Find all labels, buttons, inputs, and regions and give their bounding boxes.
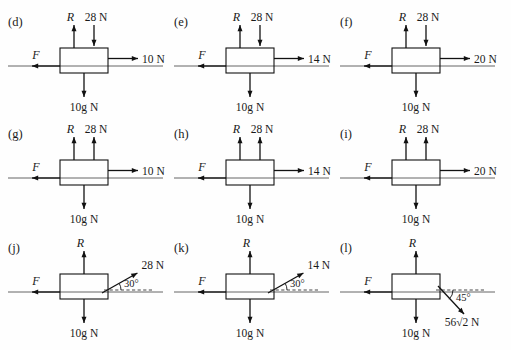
normal-force-arrow-head: [72, 137, 77, 143]
friction-label: F: [31, 160, 40, 174]
body-box: [60, 274, 108, 299]
panel-label-k: (k): [174, 241, 189, 255]
angled-force-label: 14 N: [307, 259, 330, 271]
friction-arrow-head: [32, 64, 38, 69]
weight-arrow-head: [414, 203, 419, 209]
figure-sheet: (d)R28 NF10 N10g N(e)R28 NF14 N10g N(f)R…: [0, 0, 511, 350]
applied-horizontal-label: 14 N: [308, 165, 331, 177]
applied-horizontal-arrow-head: [298, 56, 304, 61]
panel-label-l: (l): [340, 241, 352, 255]
friction-label: F: [31, 48, 40, 62]
angled-force-label: 28 N: [141, 259, 164, 271]
panel-canvas-i: (i)R28 NF20 N10g N: [332, 118, 502, 233]
panel-label-g: (g): [8, 127, 23, 141]
body-box: [226, 274, 274, 299]
panel-canvas-j: (j)RF10g N30°28 N: [0, 232, 170, 347]
body-box: [226, 160, 274, 185]
normal-force-arrow-head: [404, 25, 409, 31]
applied-horizontal-arrow-head: [132, 56, 138, 61]
weight-arrow-head: [82, 203, 87, 209]
weight-arrow-head: [414, 91, 419, 97]
angle-label: 45°: [456, 292, 471, 303]
normal-force-label: R: [76, 236, 85, 250]
normal-force-label: R: [398, 10, 407, 24]
normal-force-label: R: [398, 122, 407, 136]
normal-force-arrow-head: [414, 251, 419, 257]
friction-arrow-head: [364, 290, 370, 295]
body-box: [392, 274, 440, 299]
normal-force-arrow-head: [238, 137, 243, 143]
weight-label: 10g N: [236, 327, 265, 340]
panel-canvas-g: (g)R28 NF10 N10g N: [0, 118, 170, 233]
panel-label-e: (e): [174, 15, 188, 29]
friction-arrow-head: [198, 176, 204, 181]
applied-horizontal-arrow-head: [132, 168, 138, 173]
weight-label: 10g N: [402, 101, 431, 114]
applied-horizontal-arrow-head: [298, 168, 304, 173]
normal-force-arrow-head: [238, 25, 243, 31]
normal-force-label: R: [232, 122, 241, 136]
friction-arrow-head: [198, 290, 204, 295]
friction-arrow-head: [364, 64, 370, 69]
weight-label: 10g N: [402, 327, 431, 340]
angle-arc: [119, 284, 121, 291]
friction-label: F: [197, 160, 206, 174]
weight-label: 10g N: [236, 213, 265, 226]
body-box: [60, 160, 108, 185]
weight-arrow-head: [248, 203, 253, 209]
panel-label-d: (d): [8, 15, 23, 29]
panel-canvas-h: (h)R28 NF14 N10g N: [166, 118, 336, 233]
panel-canvas-f: (f)R28 NF20 N10g N: [332, 6, 502, 121]
friction-label: F: [363, 48, 372, 62]
friction-arrow-head: [364, 176, 370, 181]
applied-vertical-label: 28 N: [251, 123, 274, 135]
body-box: [226, 48, 274, 73]
weight-label: 10g N: [70, 327, 99, 340]
normal-force-arrow-head: [72, 25, 77, 31]
normal-force-arrow-head: [82, 251, 87, 257]
force-diagram-panel-f: (f)R28 NF20 N10g N: [332, 6, 502, 121]
weight-arrow-head: [414, 317, 419, 323]
force-diagram-panel-l: (l)RF10g N45°56√2 N: [332, 232, 502, 347]
weight-label: 10g N: [70, 101, 99, 114]
normal-force-label: R: [408, 236, 417, 250]
force-diagram-panel-j: (j)RF10g N30°28 N: [0, 232, 170, 347]
applied-horizontal-arrow-head: [464, 56, 470, 61]
applied-horizontal-label: 20 N: [474, 53, 497, 65]
panel-canvas-d: (d)R28 NF10 N10g N: [0, 6, 170, 121]
panel-label-f: (f): [340, 15, 353, 29]
friction-label: F: [363, 274, 372, 288]
force-diagram-panel-h: (h)R28 NF14 N10g N: [166, 118, 336, 233]
friction-arrow-head: [198, 64, 204, 69]
friction-label: F: [197, 48, 206, 62]
applied-vertical-arrow-head: [424, 137, 429, 143]
force-diagram-panel-e: (e)R28 NF14 N10g N: [166, 6, 336, 121]
force-diagram-panel-i: (i)R28 NF20 N10g N: [332, 118, 502, 233]
applied-horizontal-label: 20 N: [474, 165, 497, 177]
applied-vertical-arrow-head: [424, 40, 429, 46]
angle-arc: [285, 284, 287, 291]
friction-label: F: [197, 274, 206, 288]
panel-label-j: (j): [8, 241, 20, 255]
applied-vertical-label: 28 N: [85, 11, 108, 23]
force-diagram-panel-d: (d)R28 NF10 N10g N: [0, 6, 170, 121]
body-box: [392, 160, 440, 185]
normal-force-arrow-head: [248, 251, 253, 257]
weight-arrow-head: [82, 91, 87, 97]
panel-canvas-k: (k)RF10g N30°14 N: [166, 232, 336, 347]
applied-vertical-arrow-head: [92, 40, 97, 46]
weight-label: 10g N: [236, 101, 265, 114]
applied-vertical-arrow-head: [258, 40, 263, 46]
friction-arrow-head: [32, 176, 38, 181]
weight-arrow-head: [82, 317, 87, 323]
normal-force-label: R: [66, 122, 75, 136]
normal-force-label: R: [66, 10, 75, 24]
angled-force-label: 56√2 N: [445, 316, 480, 328]
applied-vertical-label: 28 N: [417, 123, 440, 135]
weight-label: 10g N: [402, 213, 431, 226]
weight-arrow-head: [248, 317, 253, 323]
applied-horizontal-label: 14 N: [308, 53, 331, 65]
applied-vertical-label: 28 N: [85, 123, 108, 135]
applied-horizontal-label: 10 N: [142, 165, 165, 177]
panel-label-i: (i): [340, 127, 352, 141]
